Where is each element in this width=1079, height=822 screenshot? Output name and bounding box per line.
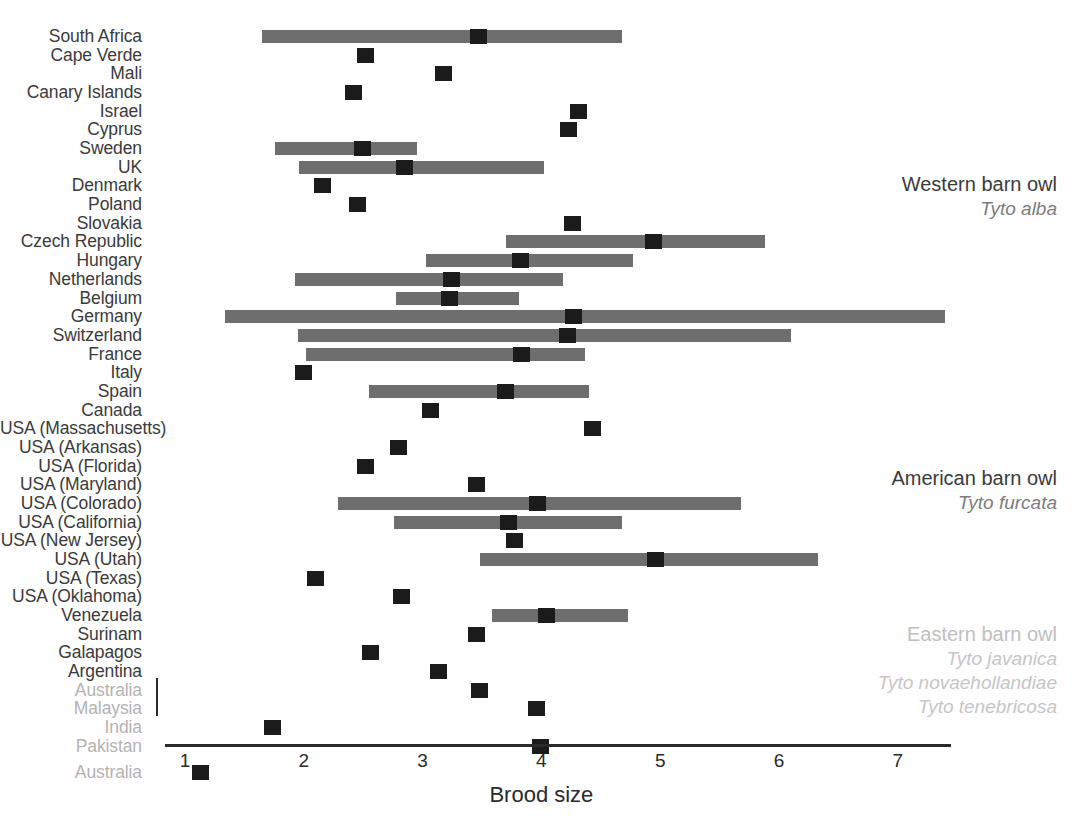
mean-marker bbox=[422, 403, 439, 418]
mean-marker bbox=[506, 533, 523, 548]
mean-marker bbox=[564, 216, 581, 231]
row-label: USA (Florida) bbox=[0, 457, 142, 476]
legend-common-name: Western barn owl bbox=[760, 172, 1057, 197]
row-label: Australia bbox=[0, 763, 142, 782]
mean-marker bbox=[443, 272, 460, 287]
row-label: Cape Verde bbox=[0, 46, 142, 65]
mean-marker bbox=[362, 645, 379, 660]
range-bar bbox=[506, 235, 765, 248]
row-label: Czech Republic bbox=[0, 232, 142, 251]
mean-marker bbox=[295, 365, 312, 380]
group-separator-tick bbox=[156, 678, 158, 716]
mean-marker bbox=[468, 627, 485, 642]
row-label: Cyprus bbox=[0, 120, 142, 139]
mean-marker bbox=[393, 589, 410, 604]
mean-marker bbox=[512, 253, 529, 268]
range-bar bbox=[262, 30, 622, 43]
row-label: USA (Utah) bbox=[0, 550, 142, 569]
mean-marker bbox=[396, 160, 413, 175]
row-label: Germany bbox=[0, 307, 142, 326]
mean-marker bbox=[354, 141, 371, 156]
range-bar bbox=[298, 329, 791, 342]
legend-scientific-name: Tyto alba bbox=[760, 197, 1057, 221]
row-label: France bbox=[0, 345, 142, 364]
row-label: Denmark bbox=[0, 176, 142, 195]
mean-marker bbox=[559, 328, 576, 343]
legend-group-2: American barn owlTyto furcata bbox=[760, 466, 1057, 515]
row-label: Pakistan bbox=[0, 737, 142, 756]
row-label: Mali bbox=[0, 64, 142, 83]
row-label: USA (Colorado) bbox=[0, 494, 142, 513]
row-label: Canary Islands bbox=[0, 83, 142, 102]
mean-marker bbox=[500, 515, 517, 530]
mean-marker bbox=[584, 421, 601, 436]
row-label: Slovakia bbox=[0, 214, 142, 233]
mean-marker bbox=[441, 291, 458, 306]
mean-marker bbox=[529, 496, 546, 511]
row-label: Switzerland bbox=[0, 326, 142, 345]
legend-scientific-name: Tyto javanica bbox=[760, 647, 1057, 671]
row-label: USA (Oklahoma) bbox=[0, 587, 142, 606]
row-label: USA (Maryland) bbox=[0, 475, 142, 494]
row-label: UK bbox=[0, 158, 142, 177]
mean-marker bbox=[497, 384, 514, 399]
mean-marker bbox=[565, 309, 582, 324]
range-bar bbox=[275, 142, 416, 155]
range-bar bbox=[369, 385, 589, 398]
legend-common-name: Eastern barn owl bbox=[760, 622, 1057, 647]
row-label: Surinam bbox=[0, 625, 142, 644]
row-label: Belgium bbox=[0, 289, 142, 308]
x-tick-label: 4 bbox=[521, 750, 561, 772]
row-label: Poland bbox=[0, 195, 142, 214]
mean-marker bbox=[471, 683, 488, 698]
legend-common-name: American barn owl bbox=[760, 466, 1057, 491]
row-label: Sweden bbox=[0, 139, 142, 158]
x-tick-label: 3 bbox=[403, 750, 443, 772]
range-bar bbox=[225, 310, 945, 323]
x-tick-label: 6 bbox=[759, 750, 799, 772]
mean-marker bbox=[345, 85, 362, 100]
row-label: Malaysia bbox=[0, 699, 142, 718]
mean-marker bbox=[528, 701, 545, 716]
x-tick-label: 2 bbox=[284, 750, 324, 772]
mean-marker bbox=[307, 571, 324, 586]
x-axis-line bbox=[165, 744, 951, 747]
x-axis-title: Brood size bbox=[341, 782, 741, 808]
mean-marker bbox=[430, 664, 447, 679]
mean-marker bbox=[647, 552, 664, 567]
row-label: Hungary bbox=[0, 251, 142, 270]
range-bar bbox=[299, 161, 544, 174]
range-bar bbox=[426, 254, 633, 267]
mean-marker bbox=[538, 608, 555, 623]
row-label: India bbox=[0, 718, 142, 737]
row-label: Australia bbox=[0, 681, 142, 700]
brood-size-chart: South AfricaCape VerdeMaliCanary Islands… bbox=[0, 0, 1079, 822]
mean-marker bbox=[264, 720, 281, 735]
mean-marker bbox=[570, 104, 587, 119]
row-label: USA (Texas) bbox=[0, 569, 142, 588]
mean-marker bbox=[560, 122, 577, 137]
mean-marker bbox=[314, 178, 331, 193]
row-label: USA (New Jersey) bbox=[0, 531, 142, 550]
row-label: Argentina bbox=[0, 662, 142, 681]
row-label: South Africa bbox=[0, 27, 142, 46]
row-label: Italy bbox=[0, 363, 142, 382]
mean-marker bbox=[357, 48, 374, 63]
row-label: Venezuela bbox=[0, 606, 142, 625]
legend-scientific-name: Tyto furcata bbox=[760, 491, 1057, 515]
range-bar bbox=[306, 348, 585, 361]
mean-marker bbox=[645, 234, 662, 249]
mean-marker bbox=[468, 477, 485, 492]
legend-group-3: Eastern barn owlTyto javanicaTyto novaeh… bbox=[760, 622, 1057, 719]
mean-marker bbox=[470, 29, 487, 44]
mean-marker bbox=[435, 66, 452, 81]
range-bar bbox=[492, 609, 629, 622]
x-tick-label: 5 bbox=[640, 750, 680, 772]
row-label: Canada bbox=[0, 401, 142, 420]
legend-scientific-name: Tyto tenebricosa bbox=[760, 695, 1057, 719]
range-bar bbox=[295, 273, 562, 286]
row-label: Spain bbox=[0, 382, 142, 401]
mean-marker bbox=[357, 459, 374, 474]
legend-scientific-name: Tyto novaehollandiae bbox=[760, 671, 1057, 695]
row-label: USA (California) bbox=[0, 513, 142, 532]
